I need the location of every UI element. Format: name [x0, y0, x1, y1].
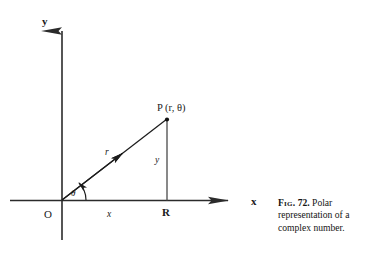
- polar-diagram: y x O P (r, θ) R r x y θ: [0, 0, 260, 254]
- point-p-label: P (r, θ): [157, 102, 186, 114]
- radius-segment-label: r: [105, 147, 109, 157]
- figure-container: y x O P (r, θ) R r x y θ Fig. 72. Polar …: [0, 0, 388, 254]
- origin-label: O: [44, 208, 52, 220]
- figure-caption: Fig. 72. Polar representation of a compl…: [278, 197, 382, 234]
- angle-theta-label: θ: [71, 188, 76, 198]
- point-r-label: R: [162, 206, 171, 218]
- x-axis-label: x: [251, 195, 257, 207]
- y-axis-label: y: [42, 15, 48, 27]
- abscissa-segment-label: x: [106, 209, 112, 219]
- caption-fig-number: 72.: [298, 197, 310, 208]
- caption-fig-tag: Fig.: [278, 197, 295, 208]
- ordinate-segment-label: y: [154, 155, 160, 165]
- point-p-marker: [165, 117, 169, 121]
